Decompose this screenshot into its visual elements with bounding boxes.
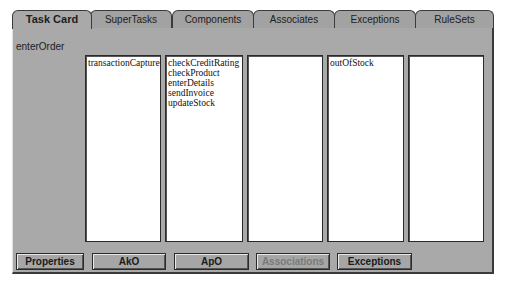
list-item[interactable]: outOfStock (330, 58, 401, 68)
tab-rulesets[interactable]: RuleSets (415, 10, 494, 28)
list-item[interactable]: enterDetails (168, 78, 240, 88)
associations-button[interactable]: Associations (256, 253, 330, 270)
tab-components[interactable]: Components (172, 10, 254, 28)
list-item[interactable]: checkCreditRating (168, 58, 240, 68)
ako-button[interactable]: AkO (92, 253, 166, 270)
apo-button[interactable]: ApO (174, 253, 249, 270)
rulesets-list[interactable] (408, 55, 484, 242)
supertasks-list[interactable]: transactionCapture (85, 55, 161, 242)
associates-list[interactable] (247, 55, 323, 242)
list-item[interactable]: sendInvoice (168, 88, 240, 98)
list-item[interactable]: updateStock (168, 98, 240, 108)
tab-associates[interactable]: Associates (253, 10, 335, 28)
tab-task-card[interactable]: Task Card (12, 10, 92, 29)
tab-supertasks[interactable]: SuperTasks (90, 10, 172, 28)
tab-exceptions[interactable]: Exceptions (334, 10, 416, 28)
task-name-label: enterOrder (16, 41, 64, 52)
exceptions-list[interactable]: outOfStock (327, 55, 404, 242)
list-item[interactable]: checkProduct (168, 68, 240, 78)
list-item[interactable]: transactionCapture (88, 58, 158, 68)
properties-button[interactable]: Properties (16, 253, 84, 270)
exceptions-button[interactable]: Exceptions (337, 253, 412, 270)
components-list[interactable]: checkCreditRating checkProduct enterDeta… (165, 55, 243, 242)
